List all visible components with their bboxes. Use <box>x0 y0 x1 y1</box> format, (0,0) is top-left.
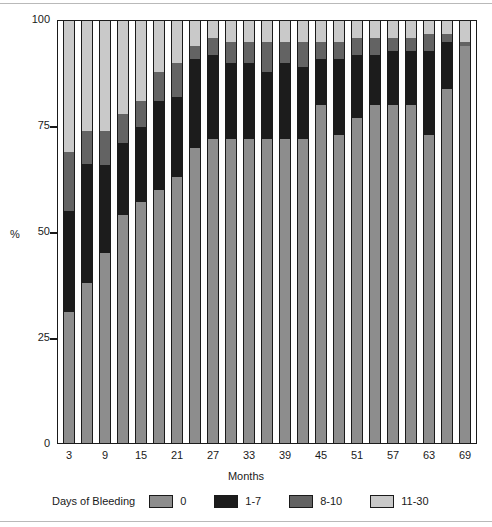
legend-label: 11-30 <box>401 495 428 507</box>
stacked-bar[interactable] <box>459 21 471 443</box>
bar-segment-0 <box>352 118 362 443</box>
bar-segment-8-10 <box>424 34 434 51</box>
bar-slot <box>258 21 276 443</box>
stacked-bar[interactable] <box>207 21 219 443</box>
bar-segment-0 <box>82 283 92 443</box>
bar-segment-0 <box>118 215 128 443</box>
bar-segment-1-7 <box>190 59 200 148</box>
bar-segment-0 <box>388 105 398 443</box>
stacked-bar[interactable] <box>189 21 201 443</box>
bar-segment-1-7 <box>208 55 218 139</box>
stacked-bar[interactable] <box>243 21 255 443</box>
bar-segment-1-7 <box>154 101 164 190</box>
bar-segment-0 <box>424 135 434 443</box>
bar-segment-8-10 <box>244 42 254 63</box>
stacked-bar[interactable] <box>315 21 327 443</box>
bar-segment-0 <box>154 190 164 443</box>
bar-segment-8-10 <box>442 34 452 42</box>
stacked-bar[interactable] <box>135 21 147 443</box>
chart-legend: Days of Bleeding 01-78-1011-30 <box>52 490 472 512</box>
x-tick-label: 63 <box>416 449 442 461</box>
bar-segment-8-10 <box>316 42 326 59</box>
legend-label: 1-7 <box>245 495 261 507</box>
bar-segment-11-30 <box>316 21 326 42</box>
top-divider <box>0 3 492 4</box>
x-tick-label: 45 <box>308 449 334 461</box>
bar-segment-11-30 <box>64 21 74 152</box>
stacked-bar[interactable] <box>81 21 93 443</box>
bar-segment-11-30 <box>334 21 344 42</box>
bar-segment-8-10 <box>118 114 128 144</box>
legend-swatch <box>289 495 313 508</box>
chart-page: % 1007550250 3915212733394551576369 Mont… <box>0 0 492 527</box>
bar-series-container <box>58 21 476 443</box>
bar-segment-1-7 <box>370 55 380 106</box>
bar-segment-0 <box>334 135 344 443</box>
stacked-bar[interactable] <box>153 21 165 443</box>
stacked-bar[interactable] <box>387 21 399 443</box>
x-tick-label: 39 <box>272 449 298 461</box>
bar-slot <box>276 21 294 443</box>
bar-segment-1-7 <box>406 51 416 106</box>
bar-segment-11-30 <box>136 21 146 101</box>
stacked-bar[interactable] <box>261 21 273 443</box>
bar-segment-11-30 <box>154 21 164 72</box>
stacked-bar[interactable] <box>99 21 111 443</box>
stacked-bar[interactable] <box>225 21 237 443</box>
legend-item[interactable]: 8-10 <box>289 495 342 508</box>
bar-slot <box>294 21 312 443</box>
legend-item[interactable]: 0 <box>149 495 186 508</box>
y-tick-label: 100 <box>16 13 50 25</box>
bar-segment-11-30 <box>118 21 128 114</box>
bar-slot <box>78 21 96 443</box>
bar-segment-8-10 <box>226 42 236 63</box>
plot-area <box>57 20 477 444</box>
bar-segment-8-10 <box>100 131 110 165</box>
bar-segment-0 <box>316 105 326 443</box>
bar-slot <box>60 21 78 443</box>
bar-segment-11-30 <box>244 21 254 42</box>
stacked-bar[interactable] <box>441 21 453 443</box>
y-tick-mark <box>50 126 57 128</box>
bar-segment-1-7 <box>226 63 236 139</box>
legend-item[interactable]: 11-30 <box>370 495 428 508</box>
stacked-bar[interactable] <box>297 21 309 443</box>
stacked-bar[interactable] <box>351 21 363 443</box>
bar-segment-0 <box>442 89 452 443</box>
bar-segment-11-30 <box>352 21 362 38</box>
bar-segment-1-7 <box>442 42 452 88</box>
bar-segment-0 <box>406 105 416 443</box>
bar-segment-11-30 <box>82 21 92 131</box>
bar-segment-0 <box>208 139 218 443</box>
stacked-bar[interactable] <box>369 21 381 443</box>
y-tick-label: 0 <box>16 437 50 449</box>
bar-slot <box>186 21 204 443</box>
stacked-bar[interactable] <box>279 21 291 443</box>
legend-label: 0 <box>180 495 186 507</box>
bar-segment-0 <box>370 105 380 443</box>
bar-segment-0 <box>280 139 290 443</box>
bar-segment-8-10 <box>298 42 308 67</box>
stacked-bar[interactable] <box>171 21 183 443</box>
bar-segment-0 <box>298 139 308 443</box>
bar-segment-0 <box>460 46 470 443</box>
y-tick-label: 25 <box>16 331 50 343</box>
stacked-bar[interactable] <box>423 21 435 443</box>
stacked-bar[interactable] <box>63 21 75 443</box>
bar-segment-8-10 <box>136 101 146 126</box>
bar-segment-1-7 <box>262 72 272 140</box>
bar-segment-11-30 <box>226 21 236 42</box>
stacked-bar[interactable] <box>117 21 129 443</box>
bottom-divider <box>0 521 492 522</box>
bar-segment-1-7 <box>64 211 74 312</box>
stacked-bar[interactable] <box>405 21 417 443</box>
bar-slot <box>438 21 456 443</box>
bar-segment-8-10 <box>406 38 416 51</box>
bar-slot <box>384 21 402 443</box>
bar-segment-8-10 <box>208 38 218 55</box>
legend-swatch <box>214 495 238 508</box>
bar-slot <box>366 21 384 443</box>
legend-item[interactable]: 1-7 <box>214 495 261 508</box>
stacked-bar[interactable] <box>333 21 345 443</box>
bar-segment-8-10 <box>172 63 182 97</box>
